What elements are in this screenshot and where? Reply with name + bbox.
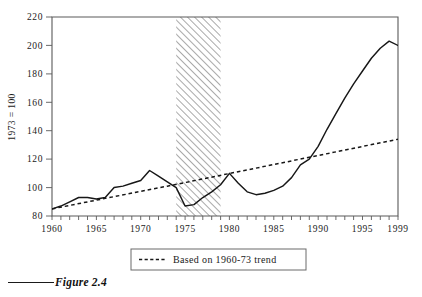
x-tick-label: 1985 xyxy=(263,224,284,234)
y-tick-label: 220 xyxy=(27,12,43,22)
x-axis-minor-ticks xyxy=(52,216,398,220)
x-tick-label: 1960 xyxy=(41,224,62,234)
figure-caption: Figure 2.4 xyxy=(55,276,107,288)
x-tick-label: 1970 xyxy=(130,224,151,234)
figure-container: 80 100 120 140 160 180 200 220 1973 = 10… xyxy=(0,0,422,297)
index-line-series xyxy=(52,41,398,209)
x-tick-label: 1999 xyxy=(387,224,408,234)
y-axis-ticks xyxy=(46,17,52,216)
figure-caption-row: Figure 2.4 xyxy=(0,271,422,293)
x-tick-label: 1975 xyxy=(174,224,195,234)
y-tick-label: 120 xyxy=(27,154,43,164)
y-axis-tick-labels: 80 100 120 140 160 180 200 220 xyxy=(27,12,43,221)
chart-canvas: 80 100 120 140 160 180 200 220 1973 = 10… xyxy=(0,0,422,297)
legend-label: Based on 1960-73 trend xyxy=(173,254,277,265)
x-tick-label: 1965 xyxy=(86,224,107,234)
y-tick-label: 160 xyxy=(27,98,43,108)
y-tick-label: 180 xyxy=(27,69,43,79)
y-tick-label: 140 xyxy=(27,126,43,136)
y-tick-label: 80 xyxy=(32,211,43,221)
plot-frame xyxy=(52,17,398,216)
x-tick-label: 1990 xyxy=(307,224,328,234)
x-tick-label: 1980 xyxy=(219,224,240,234)
legend: Based on 1960-73 trend xyxy=(131,249,306,270)
caption-rule xyxy=(8,282,54,283)
y-tick-label: 100 xyxy=(27,183,43,193)
y-axis-title-text: 1973 = 100 xyxy=(7,93,17,140)
x-tick-label: 1995 xyxy=(352,224,373,234)
y-axis-title: 1973 = 100 xyxy=(7,93,17,140)
y-tick-label: 200 xyxy=(27,41,43,51)
x-axis-tick-labels: 1960 1965 1970 1975 1980 1985 1990 1995 … xyxy=(41,224,408,234)
series-group xyxy=(52,41,398,209)
hatched-period-band xyxy=(176,17,220,216)
